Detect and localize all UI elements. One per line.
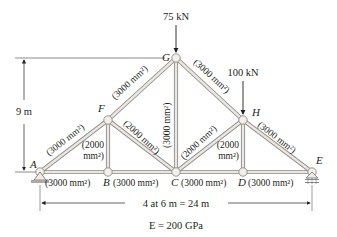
area-label-bf-1: (2000 [82, 140, 104, 151]
area-label-dh-2: mm²) [218, 151, 239, 162]
joint-h [239, 116, 247, 124]
load-g-label: 75 kN [163, 11, 189, 22]
node-label-h: H [251, 106, 261, 118]
joint-d [239, 168, 247, 176]
area-label-cg: (3000 mm²) [162, 103, 173, 148]
area-label-de: (3000 mm²) [248, 178, 293, 189]
area-label-he: (3000 mm²) [255, 120, 298, 156]
node-label-e: E [315, 154, 323, 166]
area-label-dh-1: (2000 [217, 140, 239, 151]
load-g: 75 kN [163, 11, 189, 52]
node-label-c: C [171, 176, 179, 188]
area-label-fg: (3000 mm²) [110, 63, 151, 102]
node-label-f: F [97, 102, 105, 114]
height-label: 9 m [16, 106, 32, 117]
area-label-ab: (3000 mm²) [45, 178, 90, 189]
joint-g [172, 54, 180, 62]
node-label-d: D [237, 176, 246, 188]
span-dimension: 4 at 6 m = 24 m [40, 185, 312, 211]
member-he [243, 120, 312, 172]
truss-diagram: 9 m 4 at 6 m = 24 m E = 200 GPa 75 kN 10… [0, 0, 337, 237]
span-label: 4 at 6 m = 24 m [143, 198, 210, 209]
area-label-fc: (2000 mm²) [121, 118, 162, 157]
joint-b [104, 168, 112, 176]
joint-c [172, 168, 180, 176]
node-label-a: A [29, 158, 37, 170]
load-h-label: 100 kN [227, 67, 259, 78]
area-label-bc: (3000 mm²) [113, 178, 158, 189]
joint-f [104, 116, 112, 124]
area-label-bf-2: mm²) [83, 151, 104, 162]
modulus-label: E = 200 GPa [149, 220, 203, 231]
node-label-g: G [162, 51, 170, 63]
area-label-cd: (3000 mm²) [181, 178, 226, 189]
truss-members [40, 58, 312, 172]
node-label-b: B [103, 176, 110, 188]
